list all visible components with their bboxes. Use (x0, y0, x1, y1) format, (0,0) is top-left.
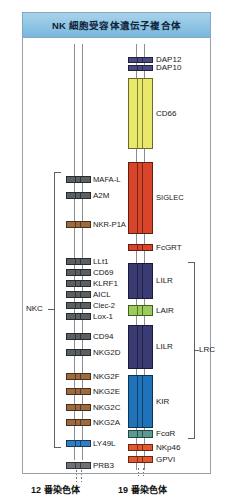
gene-rail-separator (142, 457, 143, 462)
gene-rail-separator (137, 163, 138, 233)
gene-rail-separator (75, 281, 76, 286)
figure-title-banner: NK 細胞受容体遺伝子複合体 (22, 12, 211, 38)
gene-label-a2m: A2M (93, 192, 109, 200)
gene-rail-separator (80, 177, 81, 182)
gene-rail-separator (80, 441, 81, 446)
gene-rail-separator (137, 58, 138, 62)
gene-rail-separator (75, 441, 76, 446)
gene-rail-separator (80, 463, 81, 468)
gene-label-llt1: LLt1 (93, 258, 109, 266)
gene-rail-separator (142, 66, 143, 70)
chromosome-12-caption: 12 番染色体 (31, 483, 80, 496)
gene-rail-separator (80, 374, 81, 379)
figure-title: NK 細胞受容体遺伝子複合体 (52, 18, 181, 32)
gene-rail-separator (75, 334, 76, 339)
nkc-bracket-label: NKC (26, 305, 43, 313)
gene-rail-separator (75, 177, 76, 182)
gene-block-mafa-l (66, 176, 91, 183)
gene-label-lilr: LILR (156, 277, 173, 285)
gene-block-nkg2e (66, 388, 91, 395)
gene-rail-separator (75, 193, 76, 198)
gene-block-cd66 (128, 78, 153, 149)
gene-block-lilr (128, 263, 153, 299)
gene-rail-separator (142, 58, 143, 62)
gene-rail-separator (137, 376, 138, 427)
gene-label-nkg2c: NKG2C (93, 404, 121, 412)
nkc-bracket-tick (48, 309, 54, 310)
nkc-bracket (54, 172, 61, 448)
gene-block-fcgrt (128, 244, 153, 251)
gene-label-aicl: AICL (93, 291, 111, 299)
gene-rail-separator (75, 222, 76, 227)
gene-rail-separator (137, 457, 138, 462)
chromosome-19-dots-right (143, 468, 144, 476)
gene-block-lox-1 (66, 313, 91, 320)
nk-receptor-gene-complex-figure: NK 細胞受容体遺伝子複合体 MAFA-LA2MNKR-P1ALLt1CD69K… (0, 0, 232, 503)
gene-rail-separator (80, 281, 81, 286)
gene-block-nkg2f (66, 373, 91, 380)
gene-label-cd66: CD66 (156, 110, 176, 118)
gene-rail-separator (80, 334, 81, 339)
gene-rail-separator (80, 303, 81, 308)
gene-rail-separator (80, 292, 81, 297)
gene-rail-separator (80, 259, 81, 264)
gene-label-clec-2: Clec-2 (93, 302, 115, 310)
gene-block-cd69 (66, 269, 91, 276)
gene-label-gpvi: GPVI (156, 456, 175, 464)
gene-rail-separator (142, 245, 143, 250)
gene-rail-separator (137, 445, 138, 450)
gene-rail-separator (75, 405, 76, 410)
gene-rail-separator (75, 463, 76, 468)
gene-block-nkp46 (128, 444, 153, 451)
gene-rail-separator (80, 193, 81, 198)
chromosome-12-backbone (74, 44, 83, 460)
gene-block-lair (128, 305, 153, 316)
gene-rail-separator (142, 306, 143, 315)
gene-block-nkg2d (66, 349, 91, 356)
gene-label-nkr-p1a: NKR-P1A (93, 221, 126, 229)
gene-label-klrf1: KLRF1 (93, 280, 118, 288)
gene-rail-separator (137, 245, 138, 250)
gene-label-cd94: CD94 (93, 333, 113, 341)
gene-rail-separator (142, 326, 143, 368)
gene-rail-separator (80, 350, 81, 355)
gene-label-lair: LAIR (156, 307, 174, 315)
gene-label-fc-r: FcαR (156, 430, 175, 438)
gene-rail-separator (137, 264, 138, 298)
gene-rail-separator (75, 374, 76, 379)
gene-rail-separator (137, 431, 138, 437)
gene-block-kir (128, 375, 153, 428)
gene-rail-separator (142, 163, 143, 233)
gene-label-fcgrt: FcGRT (156, 244, 182, 252)
gene-label-kir: KIR (156, 398, 169, 406)
gene-block-dap12 (128, 57, 153, 63)
gene-label-nkg2d: NKG2D (93, 349, 121, 357)
gene-rail-separator (75, 303, 76, 308)
lrc-bracket (188, 262, 195, 439)
gene-block-prb3 (66, 462, 91, 469)
lrc-bracket-label: LRC (199, 346, 215, 354)
gene-label-prb3: PRB3 (93, 462, 114, 470)
gene-block-aicl (66, 291, 91, 298)
gene-block-klrf1 (66, 280, 91, 287)
chromosome-19-dots-left (138, 468, 139, 476)
gene-label-ly49l: LY49L (93, 440, 116, 448)
gene-rail-separator (75, 350, 76, 355)
gene-rail-separator (137, 79, 138, 148)
gene-block-gpvi (128, 456, 153, 463)
gene-rail-separator (142, 264, 143, 298)
gene-block-clec-2 (66, 302, 91, 309)
gene-block-llt1 (66, 258, 91, 265)
chromosome-12-dots-left (76, 470, 77, 482)
gene-label-lox-1: Lox-1 (93, 313, 113, 321)
gene-rail-separator (80, 420, 81, 425)
gene-rail-separator (75, 259, 76, 264)
gene-block-fc-r (128, 430, 153, 438)
chromosome-12-rail-left (74, 44, 75, 460)
gene-rail-separator (75, 389, 76, 394)
gene-rail-separator (75, 292, 76, 297)
gene-rail-separator (142, 445, 143, 450)
chromosome-19-caption: 19 番染色体 (118, 483, 167, 496)
gene-block-siglec (128, 162, 153, 234)
gene-label-nkg2f: NKG2F (93, 373, 120, 381)
